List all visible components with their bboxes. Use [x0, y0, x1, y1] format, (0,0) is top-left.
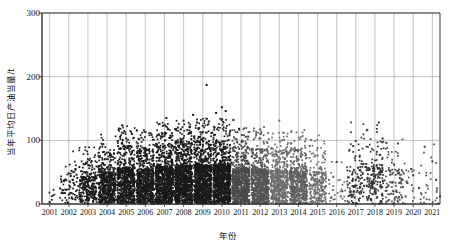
- x-tick-label: 2019: [386, 208, 402, 217]
- x-tick-label: 2011: [233, 208, 249, 217]
- x-tick-label: 2006: [137, 208, 153, 217]
- y-tick-label: 200: [14, 72, 40, 82]
- scatter-chart: 当年平均日产油当量/t 300 200 100 0 20012002200320…: [0, 0, 456, 251]
- x-tick-label: 2010: [214, 208, 230, 217]
- y-tick-label: 300: [14, 8, 40, 18]
- x-tick-label: 2001: [42, 208, 58, 217]
- x-axis-title: 年份: [0, 229, 456, 241]
- x-tick-label: 2021: [424, 208, 440, 217]
- x-tick-label: 2017: [348, 208, 364, 217]
- x-tick-label: 2007: [156, 208, 172, 217]
- x-tick-label: 2015: [310, 208, 326, 217]
- x-axis-tick-labels: 2001200220032004200520062007200820092010…: [0, 208, 456, 222]
- x-tick-label: 2012: [252, 208, 268, 217]
- x-tick-label: 2013: [271, 208, 287, 217]
- y-tick-label: 100: [14, 135, 40, 145]
- x-tick-label: 2018: [367, 208, 383, 217]
- x-tick-label: 2014: [290, 208, 306, 217]
- x-tick-label: 2008: [176, 208, 192, 217]
- x-tick-label: 2003: [80, 208, 96, 217]
- x-tick-label: 2002: [61, 208, 77, 217]
- x-tick-label: 2016: [329, 208, 345, 217]
- x-tick-label: 2005: [118, 208, 134, 217]
- x-tick-label: 2004: [99, 208, 115, 217]
- x-tick-label: 2009: [195, 208, 211, 217]
- x-tick-label: 2020: [405, 208, 421, 217]
